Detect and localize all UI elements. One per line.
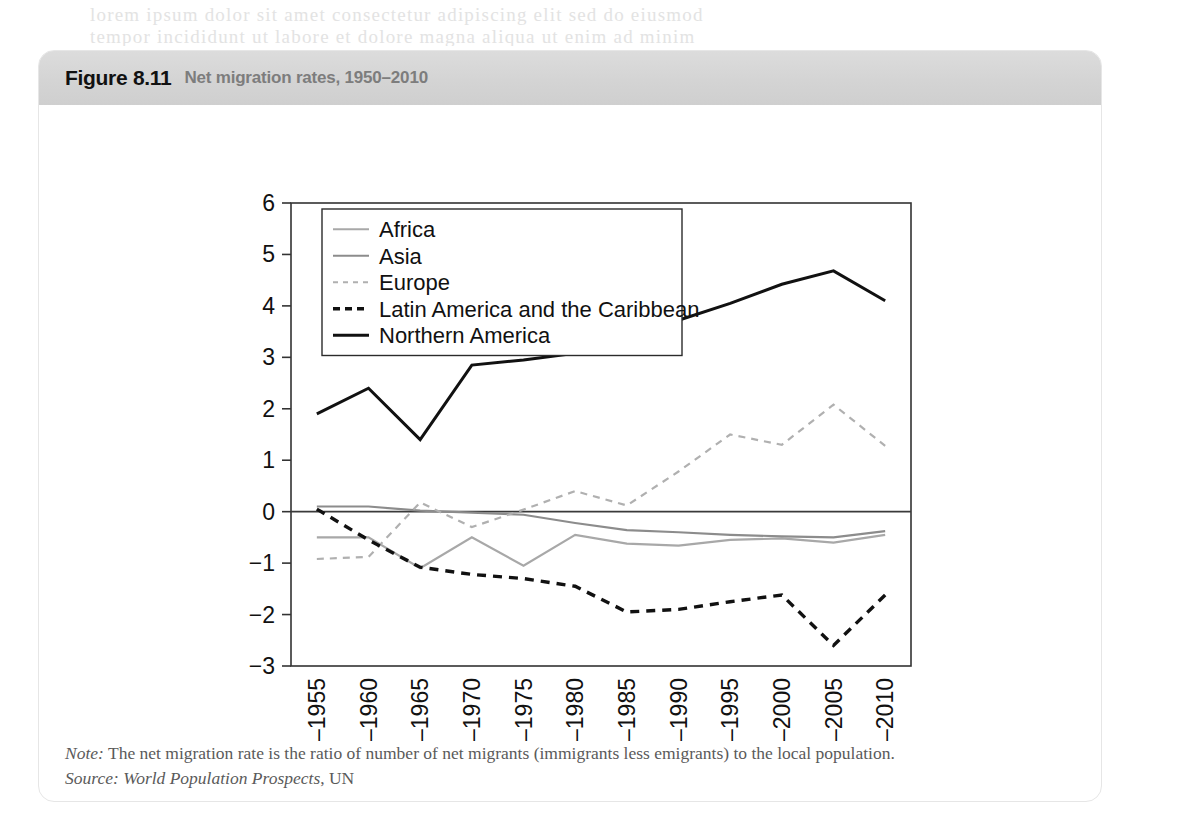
x-tick-label: 2005–2010 — [872, 678, 898, 741]
x-tick-label: 1960–1965 — [407, 678, 433, 741]
x-tick-label: 1970–1975 — [511, 678, 537, 741]
x-tick-label: 1980–1985 — [614, 678, 640, 741]
figure-title: Net migration rates, 1950–2010 — [184, 68, 427, 88]
figure-card: Figure 8.11 Net migration rates, 1950–20… — [38, 50, 1102, 802]
x-tick-label: 1995–2000 — [769, 678, 795, 741]
legend-label: Asia — [379, 244, 423, 269]
x-tick-label: 2000–2005 — [821, 678, 847, 741]
bleed-line-2: tempor incididunt ut labore et dolore ma… — [90, 26, 1087, 46]
x-tick-label: 1990–1995 — [717, 678, 743, 741]
source-title: World Population Prospects — [123, 768, 320, 788]
figure-header: Figure 8.11 Net migration rates, 1950–20… — [39, 51, 1101, 105]
y-tick-label: 3 — [262, 344, 275, 370]
legend-label: Europe — [379, 270, 450, 295]
figure-source: Source: World Population Prospects, UN — [65, 766, 1075, 791]
x-tick-label: 1965–1970 — [459, 678, 485, 741]
y-tick-label: −3 — [249, 653, 275, 679]
figure-note: Note: The net migration rate is the rati… — [65, 741, 1075, 766]
chart-area: −3−2−101234561950–19551955–19601960–1965… — [39, 105, 1101, 741]
y-tick-label: 1 — [262, 447, 275, 473]
y-tick-label: 0 — [262, 499, 275, 525]
y-tick-label: 2 — [262, 396, 275, 422]
source-publisher: , UN — [320, 768, 354, 788]
y-tick-label: 6 — [262, 190, 275, 216]
y-tick-label: −1 — [249, 550, 275, 576]
note-text: The net migration rate is the ratio of n… — [108, 743, 895, 763]
figure-number: Figure 8.11 — [65, 66, 171, 90]
y-tick-label: 5 — [262, 241, 275, 267]
source-label: Source: — [65, 768, 119, 788]
series-line — [317, 535, 885, 568]
bleed-line-1: lorem ipsum dolor sit amet consectetur a… — [90, 4, 1087, 26]
y-tick-label: 4 — [262, 293, 275, 319]
legend-label: Northern America — [379, 323, 551, 348]
note-label: Note: — [65, 743, 104, 763]
series-line — [317, 509, 885, 645]
line-chart: −3−2−101234561950–19551955–19601960–1965… — [39, 105, 1101, 741]
x-tick-label: 1955–1960 — [356, 678, 382, 741]
legend-label: Latin America and the Caribbean — [379, 297, 699, 322]
figure-footnotes: Note: The net migration rate is the rati… — [65, 741, 1075, 791]
legend-label: Africa — [379, 217, 436, 242]
y-tick-label: −2 — [249, 602, 275, 628]
page-bleed-through: lorem ipsum dolor sit amet consectetur a… — [0, 0, 1177, 46]
x-tick-label: 1985–1990 — [666, 678, 692, 741]
x-tick-label: 1950–1955 — [304, 678, 330, 741]
x-tick-label: 1975–1980 — [562, 678, 588, 741]
